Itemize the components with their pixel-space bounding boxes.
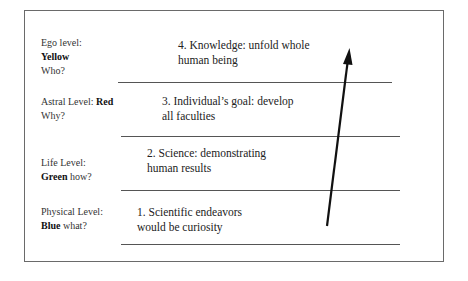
upward-arrow-icon — [0, 0, 468, 281]
